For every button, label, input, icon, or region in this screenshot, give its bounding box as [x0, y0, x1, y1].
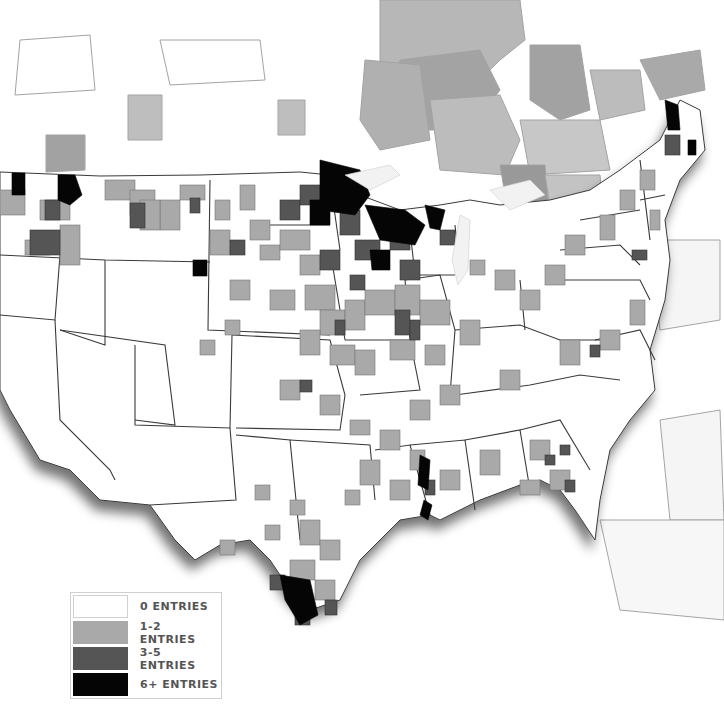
legend-item-1-2: 1-2 ENTRIES [71, 620, 221, 645]
legend-swatch-0 [73, 595, 128, 618]
legend-label-6-plus: 6+ ENTRIES [140, 678, 218, 691]
legend: 0 ENTRIES 1-2 ENTRIES 3-5 ENTRIES 6+ ENT… [70, 592, 222, 699]
legend-label-1-2: 1-2 ENTRIES [140, 620, 221, 646]
legend-swatch-3-5 [73, 647, 128, 670]
legend-label-3-5: 3-5 ENTRIES [140, 646, 221, 672]
legend-swatch-1-2 [73, 621, 128, 644]
legend-item-3-5: 3-5 ENTRIES [71, 646, 221, 671]
legend-swatch-6-plus [73, 673, 128, 696]
legend-item-6-plus: 6+ ENTRIES [71, 672, 221, 697]
legend-label-0: 0 ENTRIES [140, 600, 208, 613]
legend-item-0: 0 ENTRIES [71, 594, 221, 619]
